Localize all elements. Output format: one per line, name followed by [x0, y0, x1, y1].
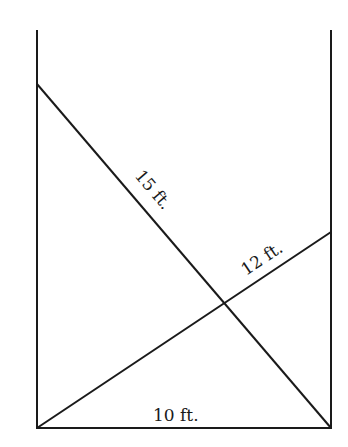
crossed-ladders-diagram: 15 ft. 12 ft. 10 ft.: [0, 0, 348, 447]
ladder-15ft-label: 15 ft.: [131, 166, 176, 214]
floor-width-label: 10 ft.: [153, 405, 199, 425]
ladder-15ft: [37, 84, 331, 428]
ladder-12ft: [37, 232, 331, 428]
ladder-12ft-label: 12 ft.: [237, 237, 286, 279]
